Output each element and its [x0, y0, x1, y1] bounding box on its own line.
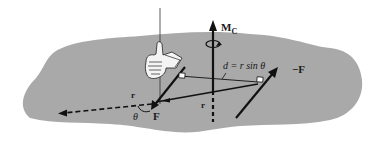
- r-left-label: r: [131, 91, 135, 100]
- force-F-label: F: [153, 111, 160, 122]
- moment-label: MC: [221, 22, 237, 36]
- diagram-canvas: [0, 0, 371, 149]
- right-angle-marker-left: [179, 73, 185, 79]
- theta-label: θ: [133, 112, 138, 122]
- force-neg-F-label: −F: [292, 64, 305, 75]
- rigid-body: [23, 32, 362, 132]
- r-center-label: r: [201, 101, 205, 110]
- moment-label-main: M: [221, 21, 231, 33]
- moment-arrowhead-icon: [209, 20, 217, 31]
- couple-moment-diagram: MC d = r sin θ −F F θ r r: [0, 0, 371, 149]
- right-angle-marker-right: [257, 77, 263, 83]
- moment-label-subscript: C: [231, 27, 237, 36]
- distance-label: d = r sin θ: [223, 61, 265, 71]
